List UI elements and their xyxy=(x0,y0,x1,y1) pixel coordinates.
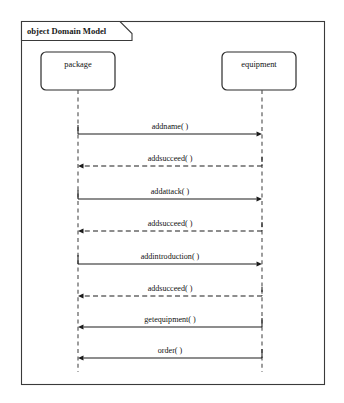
message-label: addsucceed( ) xyxy=(148,219,193,228)
sequence-diagram: object Domain Model package equipment ad… xyxy=(0,0,344,403)
lifeline-box-equipment[interactable] xyxy=(222,52,296,90)
message-label: getequipment( ) xyxy=(144,315,196,324)
frame-title-label: object Domain Model xyxy=(27,26,107,36)
lifeline-box-package[interactable] xyxy=(41,52,115,90)
message-label: addintroduction( ) xyxy=(141,252,200,261)
message-label: addsucceed( ) xyxy=(148,154,193,163)
message-label: order( ) xyxy=(158,346,183,355)
lifeline-label-package: package xyxy=(64,60,92,69)
message-label: addsucceed( ) xyxy=(148,284,193,293)
lifeline-label-equipment: equipment xyxy=(241,60,277,69)
sequence-diagram-canvas: object Domain Model package equipment ad… xyxy=(0,0,344,403)
message-label: addattack( ) xyxy=(151,187,190,196)
message-label: addname( ) xyxy=(152,122,189,131)
